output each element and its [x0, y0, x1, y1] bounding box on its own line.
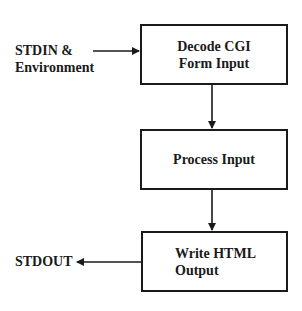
stdin-label-line2: Environment	[15, 59, 94, 76]
decode-cgi-label: Decode CGI Form Input	[142, 38, 286, 72]
write-html-label: Write HTML Output	[175, 245, 256, 279]
stdin-label: STDIN & Environment	[15, 42, 94, 76]
decode-cgi-box: Decode CGI Form Input	[140, 24, 288, 85]
stdin-label-line1: STDIN &	[15, 42, 94, 59]
stdout-label: STDOUT	[15, 253, 73, 270]
cgi-flowchart: STDIN & Environment Decode CGI Form Inpu…	[0, 0, 302, 311]
decode-cgi-line1: Decode CGI	[142, 38, 286, 55]
write-html-line2: Output	[175, 262, 256, 279]
write-html-box: Write HTML Output	[141, 231, 288, 292]
write-html-line1: Write HTML	[175, 245, 256, 262]
process-input-box: Process Input	[140, 129, 288, 190]
decode-cgi-line2: Form Input	[142, 55, 286, 72]
process-input-label: Process Input	[142, 151, 286, 168]
